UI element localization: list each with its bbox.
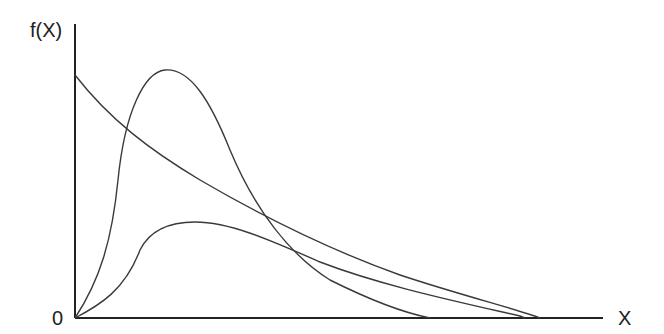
x-axis-label: X bbox=[618, 307, 631, 329]
origin-label: 0 bbox=[52, 307, 63, 329]
density-diagram: f(X) 0 X bbox=[0, 0, 664, 334]
y-axis-label: f(X) bbox=[30, 19, 62, 41]
curve-exponential-decay bbox=[75, 75, 540, 318]
curve-low-peaked bbox=[75, 222, 525, 318]
